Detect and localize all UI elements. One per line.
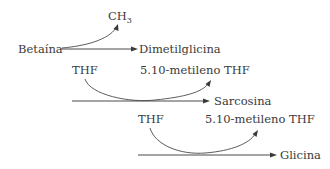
arrow-head-icon [203,99,210,104]
methylene-thf-label-2: 5.10-metileno THF [205,112,315,126]
methyl-group-label: CH3 [108,9,132,25]
arrow-head-icon [270,153,277,158]
thf-label-2: THF [138,112,164,126]
betaine-label: Betaína [18,42,63,56]
methyl-release-curved-arrow [62,28,116,48]
sarcosine-label: Sarcosina [214,94,272,108]
step-2-dimethylglycine-to-sarcosine: THF 5.10-metileno THF Sarcosina [72,63,272,108]
betaine-glycine-pathway-diagram: Betaína Dimetilglicina CH3 THF 5.10-meti… [0,0,330,169]
arrow-head-icon [131,47,138,52]
step-1-betaine-to-dimethylglycine: Betaína Dimetilglicina CH3 [18,9,221,56]
glycine-label: Glicina [280,148,321,162]
methylene-thf-label-1: 5.10-metileno THF [140,63,250,77]
cofactor-curved-arrow-1 [85,79,208,101]
thf-label-1: THF [72,63,98,77]
dimethylglycine-label: Dimetilglicina [139,42,221,56]
cofactor-curved-arrow-2 [150,128,255,153]
step-3-sarcosine-to-glycine: THF 5.10-metileno THF Glicina [138,112,321,162]
